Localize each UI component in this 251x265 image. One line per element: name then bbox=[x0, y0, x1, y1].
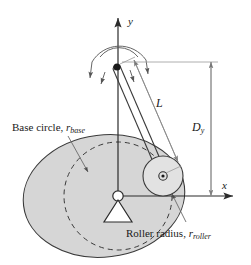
roller-radius-text: Roller radius, bbox=[126, 227, 189, 239]
arc-outer bbox=[92, 46, 146, 62]
base-circle-text: Base circle, bbox=[12, 121, 66, 133]
roller bbox=[143, 156, 183, 196]
follower-pivot bbox=[113, 63, 120, 70]
link-length-label: L bbox=[156, 97, 163, 109]
roller-radius-subscript: roller bbox=[193, 232, 211, 241]
x-axis-label: x bbox=[222, 180, 227, 191]
offset-distance-label: Dy bbox=[192, 121, 204, 135]
base-circle-label: Base circle, rbase bbox=[12, 122, 85, 135]
offset-distance-subscript: y bbox=[201, 126, 205, 135]
cam-follower-diagram: y x L Dy Base circle, rbase Roller radiu… bbox=[0, 0, 251, 265]
roller-center-dot bbox=[161, 174, 164, 177]
y-axis-label: y bbox=[128, 16, 133, 27]
offset-distance-symbol: D bbox=[192, 120, 201, 134]
roller-radius-label: Roller radius, rroller bbox=[126, 228, 211, 241]
base-circle-subscript: base bbox=[70, 126, 85, 135]
